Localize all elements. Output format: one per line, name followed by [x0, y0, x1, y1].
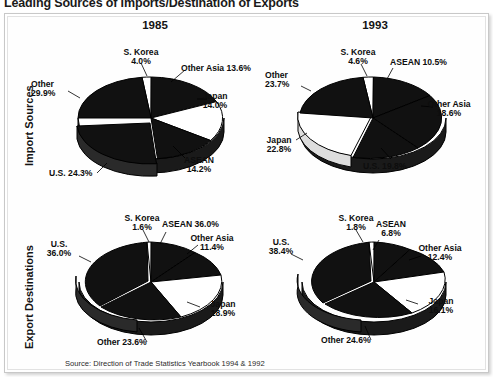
label-japan-tl: Japan 14.0% [195, 92, 235, 110]
label-value: 1.6% [132, 222, 152, 232]
label-value: 11.4% [200, 242, 224, 252]
label-asean-tr: ASEAN 10.5% [390, 58, 447, 67]
label-value: 4.0% [131, 56, 151, 66]
label-value: 23.7% [265, 79, 289, 89]
label-value: 22.8% [267, 144, 291, 154]
pie-chart-exports-1993: S. Korea 1.8% ASEAN 6.8% Other Asia 12.4… [263, 202, 488, 357]
page-title: Leading Sources of Imports/Destination o… [4, 0, 299, 10]
label-us-bl: U.S. 36.0% [39, 240, 79, 258]
label-japan-bl: Japan 18.9% [201, 300, 245, 318]
label-japan-tr: Japan 22.8% [259, 136, 299, 154]
label-asean-bl: ASEAN 36.0% [162, 220, 219, 229]
label-value: 36.0% [47, 248, 71, 258]
pie-chart-exports-1985: S. Korea 1.6% ASEAN 36.0% Other Asia 11.… [35, 202, 260, 357]
label-value: 6.8% [381, 228, 401, 238]
figure-panel: 1985 1993 Import Sources Export Destinat… [4, 13, 489, 373]
label-other-br: Other 24.6% [321, 336, 371, 345]
label-other-asia-bl: Other Asia 11.4% [183, 234, 241, 252]
label-us-br: U.S. 38.4% [261, 238, 301, 256]
label-asean-tl: ASEAN 14.2% [175, 156, 223, 174]
label-value: 38.4% [269, 246, 293, 256]
figure-page: Leading Sources of Imports/Destination o… [0, 0, 493, 377]
label-other-tr: Other 23.7% [265, 71, 289, 89]
label-value: 1.8% [346, 222, 366, 232]
source-note: Source: Direction of Trade Statistics Ye… [65, 359, 265, 368]
label-value: 14.0% [203, 100, 227, 110]
label-value: 16.1% [429, 305, 453, 315]
label-s-korea-tl: S. Korea 4.0% [111, 48, 171, 66]
label-value: 4.6% [348, 56, 368, 66]
label-value: 18.6% [437, 108, 461, 118]
label-value: 14.2% [187, 164, 211, 174]
label-value: 18.9% [211, 308, 235, 318]
label-us-tl: U.S. 24.3% [49, 169, 92, 178]
pie-chart-imports-1985: S. Korea 4.0% Other Asia 13.6% Japan 14.… [35, 36, 260, 196]
pie-chart-imports-1993: S. Korea 4.6% ASEAN 10.5% Other Asia 18.… [263, 36, 488, 196]
label-other-asia-tr: Other Asia 18.6% [418, 100, 480, 118]
label-other-asia-tl: Other Asia 13.6% [181, 64, 251, 73]
label-other-asia-br: Other Asia 12.4% [411, 244, 469, 262]
label-other-bl: Other 23.6% [97, 338, 147, 347]
label-japan-br: Japan 16.1% [419, 297, 463, 315]
label-value: 12.4% [428, 252, 452, 262]
label-asean-br: ASEAN 6.8% [367, 220, 415, 238]
label-s-korea-tr: S. Korea 4.6% [329, 48, 387, 66]
column-header-1985: 1985 [115, 19, 195, 31]
label-other-tl: Other 29.9% [31, 80, 55, 98]
column-header-1993: 1993 [335, 19, 415, 31]
label-value: 29.9% [31, 88, 55, 98]
row-label-export-destinations: Export Destinations [23, 245, 35, 349]
label-us-tr: U.S. 19.8% [363, 162, 406, 171]
